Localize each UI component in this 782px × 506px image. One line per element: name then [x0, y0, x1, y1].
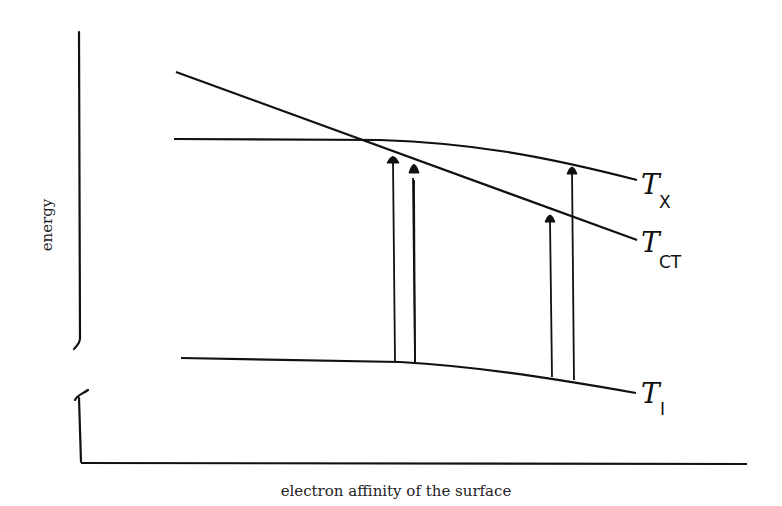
svg-text:CT: CT [659, 252, 682, 272]
svg-text:I: I [660, 399, 665, 419]
svg-text:T: T [641, 377, 662, 410]
x-axis-label: electron affinity of the surface [281, 482, 512, 500]
y-axis-label: energy [38, 198, 56, 251]
transition-arrows [387, 157, 577, 381]
y-axis [74, 32, 88, 462]
diagram-canvas: T X T CT T I energy electron affinity of… [0, 0, 782, 506]
x-axis [81, 463, 747, 464]
label-t-i: T I [641, 377, 665, 419]
curve-t-i [181, 358, 636, 393]
svg-text:X: X [659, 192, 671, 212]
curve-t-ct [176, 72, 637, 240]
energy-diagram: T X T CT T I energy electron affinity of… [0, 0, 782, 506]
label-t-x: T X [641, 168, 671, 212]
label-t-ct: T CT [641, 226, 682, 272]
